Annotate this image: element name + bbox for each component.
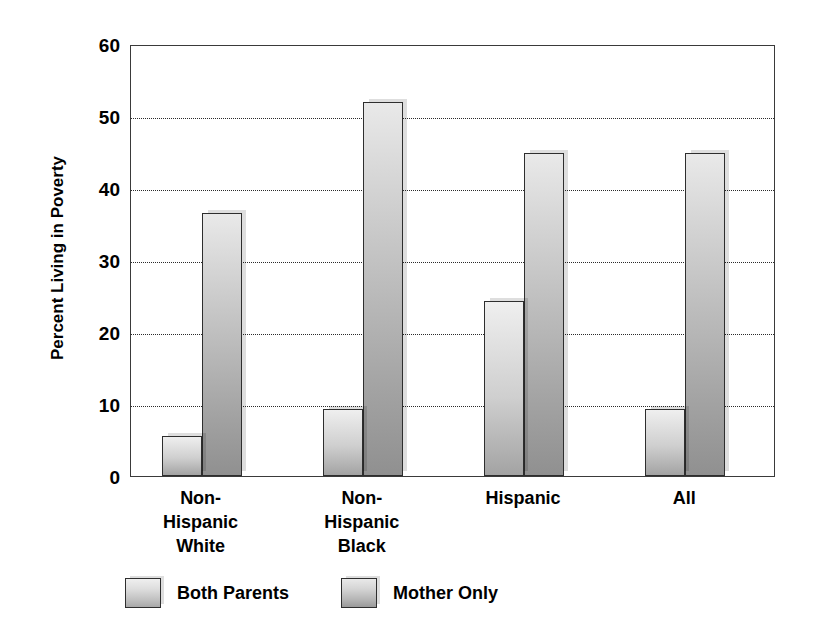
y-axis-tick-label: 50 — [58, 108, 120, 127]
bar-both-parents — [323, 409, 363, 476]
bar-both-parents — [162, 436, 202, 476]
bar-mother-only — [524, 153, 564, 476]
bar-both-parents — [645, 409, 685, 476]
y-axis-tick-label: 10 — [58, 396, 120, 415]
chart-legend: Both ParentsMother Only — [125, 578, 498, 608]
legend-item-label: Both Parents — [177, 583, 289, 604]
x-axis-category-label: Non- Hispanic White — [121, 487, 281, 558]
y-axis-tick-label: 20 — [58, 324, 120, 343]
x-axis-category-labels: Non- Hispanic WhiteNon- Hispanic BlackHi… — [130, 487, 775, 567]
legend-item-both[interactable]: Both Parents — [125, 578, 289, 608]
x-axis-category-label: Hispanic — [443, 487, 603, 511]
y-axis-tick-label: 0 — [58, 468, 120, 487]
legend-item-label: Mother Only — [393, 583, 498, 604]
y-axis-tick-label: 40 — [58, 180, 120, 199]
bars-layer — [131, 46, 774, 476]
bar-chart-figure: Percent Living in Poverty 6050403020100 … — [0, 0, 813, 642]
y-axis-tick-label: 30 — [58, 252, 120, 271]
legend-item-mother[interactable]: Mother Only — [341, 578, 498, 608]
x-axis-category-label: Non- Hispanic Black — [282, 487, 442, 558]
legend-swatch-icon — [341, 578, 377, 608]
legend-swatch-icon — [125, 578, 161, 608]
bar-both-parents — [484, 301, 524, 476]
x-axis-category-label: All — [604, 487, 764, 511]
bar-mother-only — [363, 102, 403, 476]
bar-mother-only — [202, 213, 242, 476]
bar-mother-only — [685, 153, 725, 476]
y-axis-tick-label: 60 — [58, 36, 120, 55]
y-axis-tick-labels: 6050403020100 — [58, 45, 120, 477]
plot-area — [130, 45, 775, 477]
